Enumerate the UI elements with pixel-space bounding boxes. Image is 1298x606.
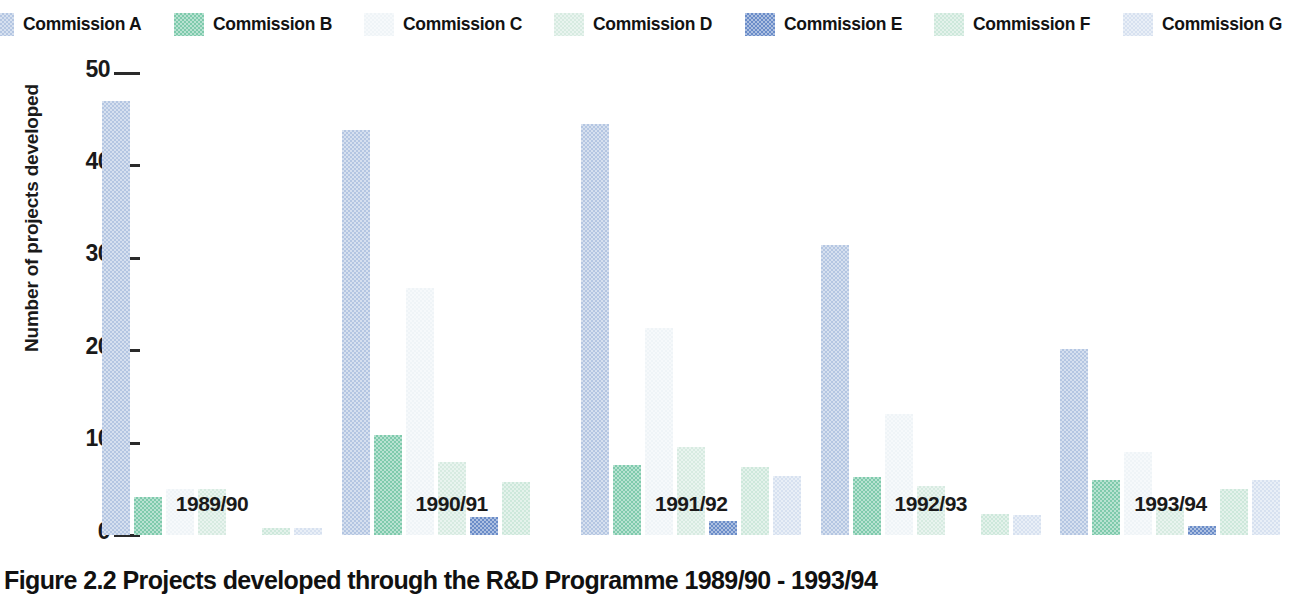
legend-swatch-icon (745, 13, 775, 36)
bar-commission-a-1991-92[interactable] (581, 124, 609, 535)
bar-commission-e-1993-94[interactable] (1188, 526, 1216, 535)
legend-swatch-icon (934, 13, 964, 36)
x-axis-tick-label: 1991/92 (655, 492, 727, 516)
x-axis-tick-label: 1990/91 (415, 492, 487, 516)
bar-group (821, 46, 1041, 546)
bar-groups (100, 46, 1298, 546)
legend-swatch-icon (364, 13, 394, 36)
legend-swatch-icon (174, 13, 204, 36)
legend-item-commission-a[interactable]: Commission A (0, 13, 152, 36)
x-axis-tick-label: 1992/93 (895, 492, 967, 516)
legend-item-commission-c[interactable]: Commission C (364, 13, 532, 36)
x-axis-tick-label: 1993/94 (1134, 492, 1206, 516)
figure-caption: Figure 2.2 Projects developed through th… (4, 566, 1294, 595)
bar-group (1060, 46, 1280, 546)
legend-item-label: Commission F (973, 13, 1090, 35)
legend-item-label: Commission B (213, 13, 332, 35)
x-axis: 1989/901990/911991/921992/931993/94 (100, 492, 1298, 522)
y-axis-label: Number of projects developed (21, 112, 43, 352)
chart-legend: Commission ACommission BCommission CComm… (0, 8, 1298, 40)
bar-group (581, 46, 801, 546)
legend-item-commission-d[interactable]: Commission D (554, 13, 722, 36)
bar-commission-g-1989-90[interactable] (294, 528, 322, 535)
legend-item-commission-b[interactable]: Commission B (174, 13, 342, 36)
legend-swatch-icon (1123, 13, 1153, 36)
legend-swatch-icon (554, 13, 584, 36)
bar-group (342, 46, 562, 546)
bar-commission-e-1991-92[interactable] (709, 521, 737, 535)
legend-item-label: Commission D (593, 13, 712, 35)
x-axis-tick-label: 1989/90 (176, 492, 248, 516)
legend-item-commission-g[interactable]: Commission G (1123, 13, 1292, 36)
bar-group (102, 46, 322, 546)
chart-plot-area: Number of projects developed 01020304050 (0, 46, 1298, 546)
legend-item-label: Commission E (784, 13, 902, 35)
legend-item-label: Commission A (23, 13, 141, 35)
bar-commission-f-1989-90[interactable] (262, 528, 290, 535)
legend-item-commission-e[interactable]: Commission E (745, 13, 912, 36)
bar-commission-a-1990-91[interactable] (342, 130, 370, 535)
legend-item-commission-f[interactable]: Commission F (934, 13, 1100, 36)
legend-item-label: Commission G (1162, 13, 1282, 35)
legend-swatch-icon (0, 13, 14, 36)
legend-item-label: Commission C (403, 13, 522, 35)
bar-commission-a-1989-90[interactable] (102, 101, 130, 535)
